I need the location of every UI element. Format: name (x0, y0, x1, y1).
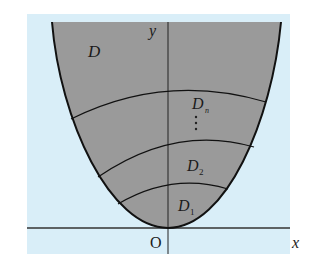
parabola-region-diagram: D y D n D 2 D 1 O x (0, 0, 331, 280)
label-region-d1: D (177, 197, 190, 214)
label-region-dn: D (191, 95, 204, 112)
label-region-d2-subscript: 2 (199, 167, 204, 177)
label-region-dn-subscript: n (205, 106, 209, 115)
ellipsis-dot (195, 128, 197, 130)
label-region-d2: D (186, 157, 199, 174)
label-region-d1-subscript: 1 (190, 207, 195, 217)
ellipsis-dot (195, 122, 197, 124)
label-y-axis: y (147, 22, 157, 40)
ellipsis-dot (195, 116, 197, 118)
label-region-d: D (87, 42, 101, 61)
label-x-axis: x (291, 234, 299, 251)
label-origin: O (150, 234, 162, 251)
